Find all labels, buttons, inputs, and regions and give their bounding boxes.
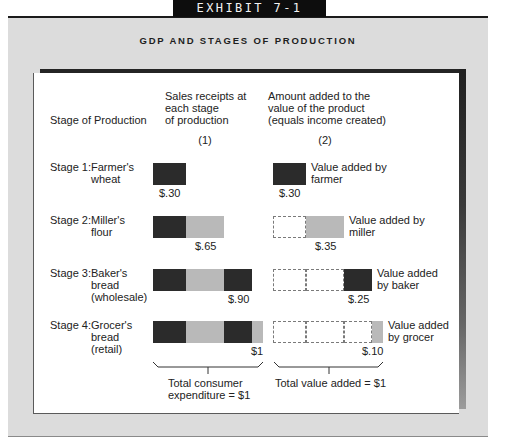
sales-bar-stage-2-segment-2: [186, 216, 224, 238]
value-added-placeholder-stage-4-segment-2: [306, 321, 344, 343]
sales-receipts-value-stage-4: $1: [251, 345, 263, 357]
total-consumer-expenditure: Total consumer expenditure = $1: [168, 377, 250, 401]
caption-line: Value added by: [349, 214, 425, 226]
value-added-value-stage-4: $.10: [362, 345, 383, 357]
caption-line: farmer: [311, 173, 387, 185]
sales-receipts-value-stage-3: $.90: [228, 293, 249, 305]
value-added-caption-stage-3: Value addedby baker: [377, 267, 438, 291]
caption-line: Value added by: [311, 161, 387, 173]
caption-line: Value added: [388, 319, 449, 331]
value-added-placeholder-stage-2-segment-1: [273, 216, 306, 238]
value-added-placeholder-stage-3-segment-2: [306, 269, 344, 291]
value-added-bar-stage-2-segment-2: [306, 216, 344, 238]
value-added-value-stage-1: $.30: [279, 187, 300, 199]
caption-line: by baker: [377, 279, 438, 291]
bars-layer: $.30$.30Value added byfarmer$.65$.35Valu…: [0, 0, 507, 443]
value-added-bar-stage-4-segment-4: [372, 321, 383, 343]
sales-bar-stage-3-segment-3: [224, 269, 252, 291]
caption-line: by grocer: [388, 331, 449, 343]
value-added-caption-stage-1: Value added byfarmer: [311, 161, 387, 185]
value-added-placeholder-stage-3-segment-1: [273, 269, 306, 291]
value-added-placeholder-stage-4-segment-3: [344, 321, 372, 343]
caption-line: miller: [349, 226, 425, 238]
value-added-caption-stage-2: Value added bymiller: [349, 214, 425, 238]
sales-bar-stage-4-segment-2: [186, 321, 224, 343]
total-value-added: Total value added = $1: [275, 377, 386, 389]
value-added-bar-stage-3-segment-3: [344, 269, 372, 291]
value-added-placeholder-stage-4-segment-1: [273, 321, 306, 343]
exhibit-page: EXHIBIT 7-1 GDP AND STAGES OF PRODUCTION…: [0, 0, 507, 443]
sales-receipts-value-stage-1: $.30: [159, 187, 180, 199]
value-added-bar-stage-1-segment-1: [273, 163, 306, 185]
sales-bar-stage-2-segment-1: [153, 216, 186, 238]
sales-bar-stage-4-segment-3: [224, 321, 252, 343]
total-line: expenditure = $1: [168, 389, 250, 401]
total-line: Total value added = $1: [275, 377, 386, 389]
caption-line: Value added: [377, 267, 438, 279]
value-added-value-stage-2: $.35: [315, 240, 336, 252]
sales-receipts-value-stage-2: $.65: [195, 240, 216, 252]
sales-bar-stage-4-segment-4: [252, 321, 263, 343]
value-added-caption-stage-4: Value addedby grocer: [388, 319, 449, 343]
value-added-value-stage-3: $.25: [348, 293, 369, 305]
sales-bar-stage-4-segment-1: [153, 321, 186, 343]
total-line: Total consumer: [168, 377, 250, 389]
sales-bar-stage-1-segment-1: [153, 163, 186, 185]
sales-bar-stage-3-segment-2: [186, 269, 224, 291]
sales-bar-stage-3-segment-1: [153, 269, 186, 291]
